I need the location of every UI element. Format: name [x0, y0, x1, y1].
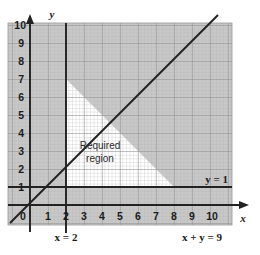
x-tick-label: 0 [20, 210, 26, 222]
x-tick-label: 9 [189, 210, 195, 222]
x-tick-label: 1 [45, 210, 51, 222]
required-region-label-line2: region [86, 153, 114, 164]
graph-figure: y x 1 2 3 4 5 6 7 8 9 10 0 1 2 3 4 5 6 7… [0, 0, 260, 255]
grid-lines [8, 23, 232, 225]
x-axis-title: x [239, 212, 246, 224]
x-tick-label: 4 [99, 210, 105, 222]
x-tick-label: 2 [63, 210, 69, 222]
x-tick-label: 8 [171, 210, 177, 222]
plot-panel [8, 23, 232, 225]
x-tick-label: 5 [117, 210, 123, 222]
x-tick-label: 7 [153, 210, 159, 222]
y-tick-label: 4 [18, 127, 24, 139]
major-gridlines [8, 23, 232, 225]
required-region-label-line1: Required [80, 140, 121, 151]
y-tick-label: 5 [18, 109, 24, 121]
y-tick-label: 7 [18, 73, 24, 85]
label-x-equals-2: x = 2 [55, 231, 78, 243]
x-tick-label: 6 [135, 210, 141, 222]
label-y-equals-1: y = 1 [205, 173, 228, 185]
y-tick-label: 1 [18, 181, 24, 193]
x-tick-labels: 0 1 2 3 4 5 6 7 8 9 10 [20, 210, 218, 222]
inequalities-graph: y x 1 2 3 4 5 6 7 8 9 10 0 1 2 3 4 5 6 7… [0, 0, 260, 255]
y-tick-label: 8 [18, 55, 24, 67]
y-tick-label: 6 [18, 91, 24, 103]
label-x-plus-y-equals-9: x + y = 9 [182, 231, 223, 243]
y-tick-label: 3 [18, 145, 24, 157]
x-tick-label: 10 [206, 210, 218, 222]
x-tick-label: 3 [81, 210, 87, 222]
y-tick-label: 10 [14, 19, 26, 31]
y-tick-label: 2 [18, 163, 24, 175]
y-tick-label: 9 [18, 37, 24, 49]
y-axis-title: y [48, 8, 55, 20]
